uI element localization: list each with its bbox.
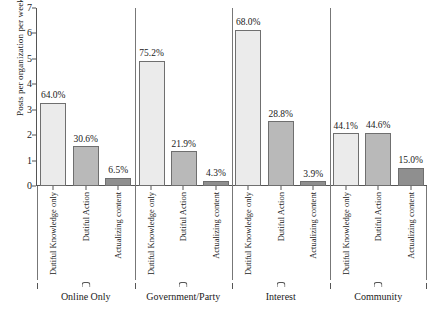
x-tick-label: Dutiful Knowledge only <box>244 192 253 275</box>
x-tick-slot: Dutiful Action <box>167 186 200 286</box>
x-tick-slot: Dutiful Knowledge only <box>135 186 168 286</box>
bar-slot: 6.5% <box>102 8 135 186</box>
bar-value-label: 44.1% <box>333 122 358 134</box>
bar-chart: Posts per organization per week 01234567… <box>0 0 429 318</box>
panel-label-separator <box>330 283 331 289</box>
x-axis-tick-labels: Dutiful Knowledge onlyDutiful ActionActu… <box>37 186 427 286</box>
x-tick-slot: Actualizing content <box>297 186 330 286</box>
x-tick-mark <box>345 186 346 190</box>
y-tick-label: 2 <box>6 130 32 140</box>
x-tick-slot: Dutiful Action <box>70 186 103 286</box>
x-tick-slot: Actualizing content <box>200 186 233 286</box>
x-tick-strip: Dutiful Knowledge onlyDutiful ActionActu… <box>37 186 135 286</box>
y-tick-label: 7 <box>6 3 32 13</box>
y-tick-mark <box>32 109 36 110</box>
bar <box>139 61 165 186</box>
y-tick-label: 0 <box>6 181 32 191</box>
bar <box>171 151 197 186</box>
x-tick-label: Actualizing content <box>114 192 123 259</box>
x-tick-label: Actualizing content <box>309 192 318 259</box>
bar-slot: 68.0% <box>232 8 265 186</box>
y-axis-ticks: 01234567 <box>0 0 32 318</box>
x-tick-label: Dutiful Action <box>179 192 188 241</box>
tick-strip-divider <box>330 186 331 280</box>
x-tick-label: Dutiful Action <box>277 192 286 241</box>
panel-label: Community <box>354 291 402 302</box>
x-tick-mark <box>410 186 411 190</box>
x-tick-mark <box>313 186 314 190</box>
panel-divider <box>135 8 136 186</box>
panel-divider <box>232 8 233 186</box>
panel-community: 44.1%44.6%15.0% <box>330 8 428 186</box>
x-tick-label: Dutiful Knowledge only <box>342 192 351 275</box>
y-tick-label: 6 <box>6 28 32 38</box>
plot-area: 64.0%30.6%6.5%75.2%21.9%4.3%68.0%28.8%3.… <box>37 8 427 186</box>
panel-label: Online Only <box>61 291 111 302</box>
x-tick-mark <box>85 186 86 190</box>
y-tick-mark <box>32 33 36 34</box>
panel-labels: Online OnlyGovernment/PartyInterestCommu… <box>37 283 427 307</box>
x-tick-label: Actualizing content <box>407 192 416 259</box>
x-tick-label: Dutiful Knowledge only <box>49 192 58 275</box>
y-tick-mark <box>32 8 36 9</box>
x-tick-slot: Dutiful Knowledge only <box>37 186 70 286</box>
bar-slot: 30.6% <box>70 8 103 186</box>
x-tick-mark <box>150 186 151 190</box>
bar-value-label: 6.5% <box>108 166 128 178</box>
x-tick-slot: Dutiful Knowledge only <box>330 186 363 286</box>
y-tick-label: 1 <box>6 156 32 166</box>
bar-value-label: 75.2% <box>139 49 164 61</box>
panel-label: Government/Party <box>146 291 220 302</box>
x-tick-slot: Actualizing content <box>395 186 428 286</box>
panel-online-only: 64.0%30.6%6.5% <box>37 8 135 186</box>
x-tick-strip: Dutiful Knowledge onlyDutiful ActionActu… <box>232 186 330 286</box>
panel-edge <box>37 186 38 280</box>
bar <box>333 133 359 186</box>
panel-government-party: 75.2%21.9%4.3% <box>135 8 233 186</box>
bar <box>235 30 261 186</box>
tick-strip-divider <box>135 186 136 280</box>
panel-label-separator <box>135 283 136 289</box>
bar-value-label: 3.9% <box>303 170 323 182</box>
bar-slot: 3.9% <box>297 8 330 186</box>
x-tick-slot: Dutiful Action <box>265 186 298 286</box>
panel-tick-marker <box>374 282 383 287</box>
y-tick-mark <box>32 58 36 59</box>
x-tick-mark <box>215 186 216 190</box>
y-tick-label: 5 <box>6 54 32 64</box>
bar <box>73 146 99 186</box>
x-tick-label: Dutiful Action <box>374 192 383 241</box>
bar-value-label: 30.6% <box>73 135 98 147</box>
bar-value-label: 44.6% <box>366 121 391 133</box>
x-tick-mark <box>183 186 184 190</box>
bar-slot: 44.6% <box>362 8 395 186</box>
bar-slot: 15.0% <box>395 8 428 186</box>
bar-slot: 4.3% <box>200 8 232 186</box>
panel-label-separator <box>37 283 38 289</box>
x-tick-mark <box>378 186 379 190</box>
x-tick-label: Dutiful Action <box>82 192 91 241</box>
x-tick-slot: Actualizing content <box>102 186 135 286</box>
panel-interest: 68.0%28.8%3.9% <box>232 8 330 186</box>
bar <box>40 103 66 186</box>
bar <box>365 133 391 186</box>
bar-slot: 64.0% <box>37 8 70 186</box>
bar-value-label: 28.8% <box>268 110 293 122</box>
bar-slot: 28.8% <box>265 8 298 186</box>
y-tick-mark <box>32 84 36 85</box>
panel-edge <box>426 283 427 289</box>
x-tick-strip: Dutiful Knowledge onlyDutiful ActionActu… <box>330 186 428 286</box>
bar <box>268 121 294 186</box>
panel-label-separator <box>232 283 233 289</box>
y-tick-mark <box>32 160 36 161</box>
bar-value-label: 21.9% <box>171 140 196 152</box>
bar <box>105 178 131 186</box>
x-tick-label: Actualizing content <box>212 192 221 259</box>
panel-edge <box>426 186 427 280</box>
x-tick-mark <box>53 186 54 190</box>
bar-value-label: 64.0% <box>41 91 66 103</box>
panel-divider <box>330 8 331 186</box>
y-tick-mark <box>32 186 36 187</box>
bar-slot: 21.9% <box>168 8 200 186</box>
x-tick-strip: Dutiful Knowledge onlyDutiful ActionActu… <box>135 186 233 286</box>
